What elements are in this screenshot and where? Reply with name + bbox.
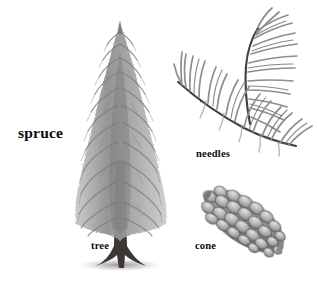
illustration-plate: spruce tree needles cone — [0, 0, 317, 285]
spruce-tree-illustration — [62, 10, 182, 275]
needle-twig-upper — [246, 8, 298, 132]
figure-label-tree: tree — [91, 240, 109, 251]
page-title: spruce — [18, 124, 63, 142]
cone-scales — [192, 174, 298, 266]
spruce-cone-illustration — [186, 172, 312, 278]
cone-body — [191, 174, 297, 267]
spruce-needles-illustration — [176, 6, 317, 158]
figure-label-needles: needles — [196, 148, 230, 159]
figure-label-cone: cone — [195, 240, 216, 251]
